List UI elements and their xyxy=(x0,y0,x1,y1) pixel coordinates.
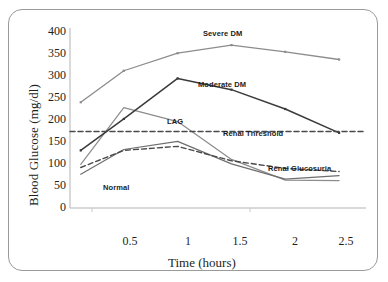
label-severe-dm: Severe DM xyxy=(203,29,242,38)
label-renal-threshold: Renal Threshold xyxy=(223,129,283,138)
label-lag: LAG xyxy=(167,117,183,126)
series-normal xyxy=(81,141,339,179)
label-normal: Normal xyxy=(103,183,129,192)
chart-container: Blood Glucose (mg/dl) Time (hours) 400 3… xyxy=(0,0,388,282)
label-moderate-dm: Moderate DM xyxy=(198,80,246,89)
label-renal-glucosuria: Renal Glucosuria xyxy=(268,164,331,173)
series-severe-dm xyxy=(80,44,341,103)
chart-plot-area xyxy=(0,0,388,282)
